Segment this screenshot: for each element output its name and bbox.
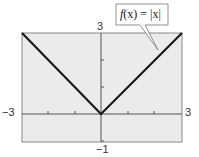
x-max-label: 3	[185, 106, 191, 118]
y-min-label: −1	[96, 143, 109, 155]
function-label: f(x) = |x|	[120, 7, 161, 22]
y-max-label: 3	[97, 20, 103, 32]
x-min-label: −3	[2, 106, 15, 118]
